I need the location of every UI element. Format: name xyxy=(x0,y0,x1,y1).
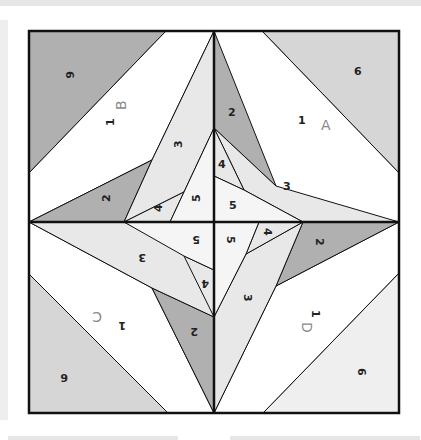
label-a-5: 5 xyxy=(229,199,237,212)
label-a-2: 2 xyxy=(228,106,236,119)
section-b xyxy=(29,31,214,222)
section-letter-a: A xyxy=(321,117,331,133)
label-b-6: 6 xyxy=(63,71,76,79)
background-decoration-bottom-left xyxy=(8,436,178,440)
section-letter-d: D xyxy=(299,322,315,333)
label-d-6: 6 xyxy=(355,368,368,376)
label-a-4: 4 xyxy=(218,158,226,171)
label-d-1: 1 xyxy=(309,310,322,318)
label-a-6: 6 xyxy=(354,65,362,78)
label-c-6: 6 xyxy=(60,371,68,384)
section-letter-b: B xyxy=(113,100,129,110)
label-b-4: 4 xyxy=(152,204,165,212)
label-c-5: 5 xyxy=(192,233,200,246)
section-a xyxy=(214,31,399,222)
label-c-3: 3 xyxy=(138,251,146,264)
label-c-1: 1 xyxy=(118,319,126,332)
label-d-5: 5 xyxy=(224,236,237,244)
section-c xyxy=(29,222,214,413)
label-d-2: 2 xyxy=(313,238,326,246)
label-a-3: 3 xyxy=(283,180,291,193)
label-c-4: 4 xyxy=(201,277,209,290)
label-b-5: 5 xyxy=(190,194,203,202)
quilt-block-diagram: 6 1 A 2 4 3 5 6 1 B 2 3 4 5 6 1 C 2 3 4 … xyxy=(0,0,421,440)
label-b-2: 2 xyxy=(100,194,113,202)
label-a-1: 1 xyxy=(298,114,306,127)
section-d xyxy=(214,222,399,413)
background-decoration-bottom-right xyxy=(230,436,420,440)
label-c-2: 2 xyxy=(190,325,198,338)
section-letter-c: C xyxy=(92,309,102,325)
label-d-3: 3 xyxy=(241,294,254,302)
label-d-4: 4 xyxy=(261,228,274,236)
label-b-1: 1 xyxy=(104,118,117,126)
label-b-3: 3 xyxy=(172,140,185,148)
